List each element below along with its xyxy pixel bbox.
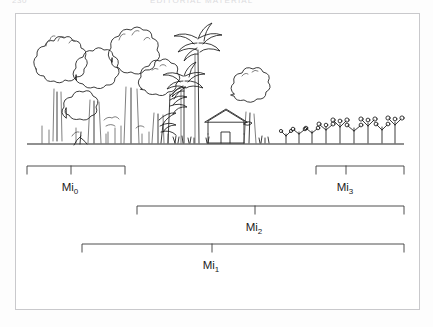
- bracket-label-mi3: Mi3: [337, 181, 354, 196]
- bracket-label-mi0: Mi0: [62, 181, 79, 196]
- running-head: EDITORIAL MATERIAL: [150, 0, 253, 5]
- shade-tree-illustration: [231, 68, 271, 143]
- house-illustration: [205, 109, 247, 143]
- bracket-label-mi1: Mi1: [203, 259, 220, 274]
- broadleaf-forest-illustration: [34, 27, 187, 145]
- bracket-mi0: Mi0: [27, 166, 125, 196]
- bracket-mi3: Mi3: [316, 166, 404, 196]
- page-header: 230 EDITORIAL MATERIAL: [0, 0, 433, 9]
- figure-frame: Mi0 Mi3 Mi2 Mi1: [15, 13, 420, 310]
- bracket-mi1: Mi1: [82, 244, 404, 274]
- page-folio-number: 230: [12, 0, 27, 5]
- bracket-mi2: Mi2: [137, 206, 404, 236]
- land-use-gradient-figure: Mi0 Mi3 Mi2 Mi1: [16, 14, 421, 311]
- bracket-label-mi2: Mi2: [246, 221, 263, 236]
- crop-shrubs-illustration: [279, 116, 404, 143]
